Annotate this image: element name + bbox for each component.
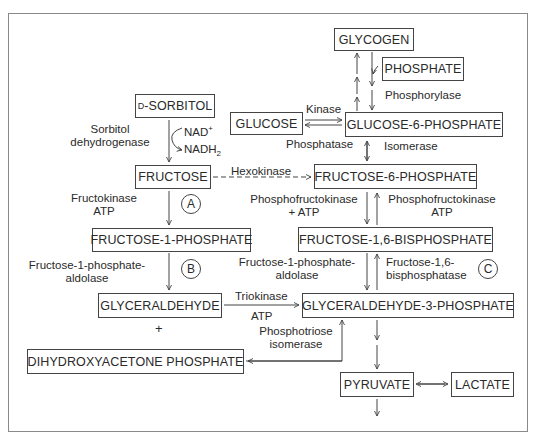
phosphotriose-isomerase-label: Phosphotriose isomerase xyxy=(254,325,338,351)
sorbitol-label: -SORBITOL xyxy=(144,99,212,113)
phosphorylase-label: Phosphorylase xyxy=(385,89,461,102)
tpi-line1: Phosphotriose xyxy=(254,325,338,338)
triokinase-label: Triokinase xyxy=(235,290,288,303)
glyceraldehyde-3-phosphate-label: GLYCERALDEHYDE-3-PHOSPHATE xyxy=(302,299,514,313)
fructose-1-phosphate-label: FRUCTOSE-1-PHOSPHATE xyxy=(91,233,253,247)
pfk-left-line1: Phosphofructokinase xyxy=(246,193,362,206)
f1p-aldolase-left-label: Fructose-1-phosphate- aldolase xyxy=(22,259,152,285)
pyruvate-box: PYRUVATE xyxy=(340,372,414,397)
phosphate-label: PHOSPHATE xyxy=(384,62,461,76)
fructose-box: FRUCTOSE xyxy=(135,165,211,189)
pfk-right-line2: ATP xyxy=(384,206,500,219)
pfk-left-line2: + ATP xyxy=(246,206,362,219)
fbpase-line1: Fructose-1,6- xyxy=(386,256,467,269)
fructokinase-label: Fructokinase ATP xyxy=(64,192,144,218)
marker-a: A xyxy=(181,194,201,214)
triokinase-atp-label: ATP xyxy=(251,310,273,323)
phosphatase-label: Phosphatase xyxy=(286,138,353,151)
f1p-aldolase-mid-line2: aldolase xyxy=(232,269,362,282)
dihydroxyacetone-phosphate-box: DIHYDROXYACETONE PHOSPHATE xyxy=(27,349,244,374)
lactate-label: LACTATE xyxy=(455,378,510,392)
glyceraldehyde-3-phosphate-box: GLYCERALDEHYDE-3-PHOSPHATE xyxy=(302,293,514,318)
sorbitol-box: D-SORBITOL xyxy=(135,94,215,118)
glycogen-label: GLYCOGEN xyxy=(339,33,410,47)
lactate-box: LACTATE xyxy=(451,372,514,397)
marker-b: B xyxy=(181,259,201,279)
f1p-aldolase-mid-line1: Fructose-1-phosphate- xyxy=(232,256,362,269)
pfk-right-label: Phosphofructokinase ATP xyxy=(384,193,500,219)
glucose-6-phosphate-box: GLUCOSE-6-PHOSPHATE xyxy=(345,112,503,137)
sorbitol-prefix: D xyxy=(138,101,145,111)
f1p-aldolase-left-line1: Fructose-1-phosphate- xyxy=(22,259,152,272)
tpi-line2: isomerase xyxy=(254,338,338,351)
fructose-1-6-bisphosphate-label: FRUCTOSE-1,6-BISPHOSPHATE xyxy=(299,233,492,247)
nad-sup: + xyxy=(208,124,213,133)
nadh-text: NADH xyxy=(184,143,217,155)
hexokinase-label: Hexokinase xyxy=(231,165,291,178)
sorbitol-dh-line1: Sorbitol xyxy=(68,123,152,136)
fbpase-label: Fructose-1,6- bisphosphatase xyxy=(386,256,467,282)
sorbitol-dehydrogenase-label: Sorbitol dehydrogenase xyxy=(68,123,152,149)
f1p-aldolase-mid-label: Fructose-1-phosphate- aldolase xyxy=(232,256,362,282)
nad-label: NAD+ xyxy=(184,122,213,139)
kinase-label: Kinase xyxy=(306,103,341,116)
pfk-right-line1: Phosphofructokinase xyxy=(384,193,500,206)
nadh-label: NADH2 xyxy=(184,143,221,160)
pyruvate-label: PYRUVATE xyxy=(344,378,410,392)
glucose-6-phosphate-label: GLUCOSE-6-PHOSPHATE xyxy=(347,118,501,132)
isomerase-label: Isomerase xyxy=(384,140,438,153)
fructose-6-phosphate-box: FRUCTOSE-6-PHOSPHATE xyxy=(314,164,477,189)
fructose-6-phosphate-label: FRUCTOSE-6-PHOSPHATE xyxy=(315,170,477,184)
fructokinase-text: Fructokinase xyxy=(64,192,144,205)
fructokinase-atp: ATP xyxy=(64,205,144,218)
fbpase-line2: bisphosphatase xyxy=(386,269,467,282)
nad-text: NAD xyxy=(184,126,208,138)
marker-c: C xyxy=(478,259,498,279)
f1p-aldolase-left-line2: aldolase xyxy=(22,272,152,285)
nadh-sub: 2 xyxy=(217,149,221,158)
sorbitol-dh-line2: dehydrogenase xyxy=(68,136,152,149)
fructose-1-6-bisphosphate-box: FRUCTOSE-1,6-BISPHOSPHATE xyxy=(298,227,493,252)
glycogen-box: GLYCOGEN xyxy=(334,28,414,51)
fructose-1-phosphate-box: FRUCTOSE-1-PHOSPHATE xyxy=(92,228,251,252)
glyceraldehyde-label: GLYCERALDEHYDE xyxy=(100,299,219,313)
glucose-label: GLUCOSE xyxy=(236,117,298,131)
plus-sign: + xyxy=(155,322,163,335)
dihydroxyacetone-phosphate-label: DIHYDROXYACETONE PHOSPHATE xyxy=(28,355,244,369)
phosphate-box: PHOSPHATE xyxy=(382,57,464,81)
glyceraldehyde-box: GLYCERALDEHYDE xyxy=(98,293,222,318)
fructose-label: FRUCTOSE xyxy=(138,170,207,184)
pfk-left-label: Phosphofructokinase + ATP xyxy=(246,193,362,219)
glucose-box: GLUCOSE xyxy=(230,112,303,135)
